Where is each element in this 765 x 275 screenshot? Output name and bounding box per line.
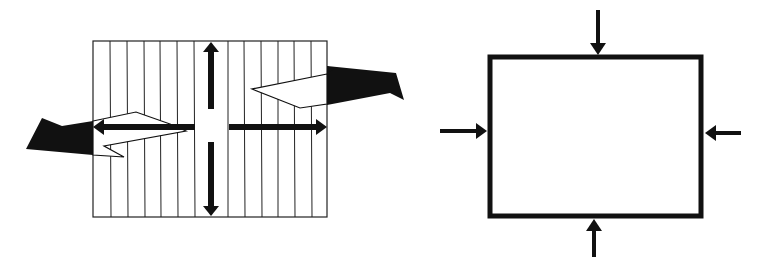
striped-panel (26, 41, 404, 217)
arrow-down-icon (203, 142, 219, 216)
flag-right-icon (252, 66, 404, 108)
arrow-from-right-icon (705, 125, 741, 141)
arrow-from-top-icon (590, 10, 606, 55)
diagram-svg (0, 0, 765, 275)
arrow-up-icon (203, 42, 219, 109)
compression-box (440, 10, 741, 257)
diagram-canvas (0, 0, 765, 275)
arrow-from-bottom-icon (586, 219, 602, 257)
arrow-from-left-icon (440, 123, 487, 139)
box-border (490, 57, 701, 216)
flag-left-icon (26, 112, 186, 157)
